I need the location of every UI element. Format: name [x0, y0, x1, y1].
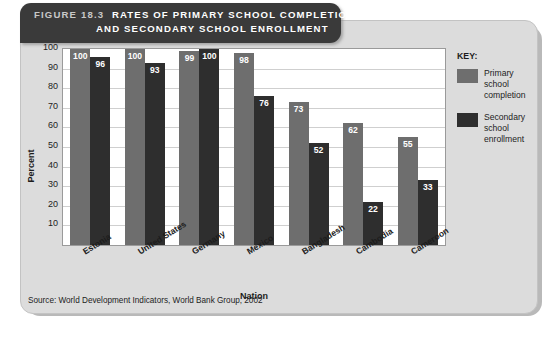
bar-value-label: 76 [254, 98, 274, 108]
bar-value-label: 99 [179, 53, 199, 63]
bar-primary: 73 [289, 102, 309, 245]
figure-title-banner: FIGURE 18.3 RATES OF PRIMARY SCHOOL COMP… [20, 3, 341, 43]
bar-primary: 100 [125, 49, 145, 245]
bar-value-label: 55 [398, 139, 418, 149]
legend-label-primary: Primary school completion [484, 68, 535, 101]
bar-group: 10093 [125, 49, 165, 245]
bar-value-label: 52 [309, 145, 329, 155]
legend-swatch-secondary-icon [457, 113, 478, 127]
y-axis-tick-label: 10 [18, 218, 58, 228]
bar-value-label: 96 [90, 59, 110, 69]
bar-value-label: 62 [343, 125, 363, 135]
bar-primary: 100 [70, 49, 90, 245]
bar-secondary: 76 [254, 96, 274, 245]
legend-swatch-primary-icon [457, 69, 478, 83]
bar-value-label: 100 [70, 51, 90, 61]
figure-title-text-1: RATES OF PRIMARY SCHOOL COMPLETION [112, 9, 355, 20]
bar-group: 7352 [289, 49, 329, 245]
legend-label-secondary: Secondary school enrollment [484, 112, 535, 145]
bar-value-label: 22 [363, 204, 383, 214]
bar-value-label: 93 [145, 65, 165, 75]
y-axis-tick-label: 60 [18, 120, 58, 130]
legend-item-primary: Primary school completion [457, 68, 535, 101]
y-axis-ticks: 102030405060708090100 [20, 48, 58, 246]
bar-value-label: 33 [418, 182, 438, 192]
chart-legend: KEY: Primary school completion Secondary… [457, 51, 535, 156]
bar-secondary: 52 [309, 143, 329, 245]
y-axis-tick-label: 20 [18, 199, 58, 209]
y-axis-tick-label: 30 [18, 179, 58, 189]
bar-secondary: 96 [90, 57, 110, 245]
bar-primary: 99 [179, 51, 199, 245]
y-axis-tick-label: 40 [18, 160, 58, 170]
legend-item-secondary: Secondary school enrollment [457, 112, 535, 145]
y-axis-tick-label: 80 [18, 81, 58, 91]
figure-container: FIGURE 18.3 RATES OF PRIMARY SCHOOL COMP… [0, 0, 549, 350]
bar-value-label: 98 [234, 55, 254, 65]
y-axis-tick-label: 70 [18, 101, 58, 111]
bar-groups: 1009610093991009876735262225533 [63, 49, 445, 245]
bar-value-label: 100 [199, 51, 219, 61]
figure-title-line-1: FIGURE 18.3 RATES OF PRIMARY SCHOOL COMP… [34, 8, 341, 22]
bar-primary: 62 [343, 123, 363, 245]
bar-primary: 55 [398, 137, 418, 245]
bar-value-label: 73 [289, 104, 309, 114]
bar-group: 9876 [234, 49, 274, 245]
legend-title: KEY: [457, 51, 535, 61]
chart-area: Percent 102030405060708090100 1009610093… [20, 43, 536, 312]
bar-group: 5533 [398, 49, 438, 245]
y-axis-tick-label: 90 [18, 62, 58, 72]
bar-secondary: 100 [199, 49, 219, 245]
bar-group: 10096 [70, 49, 110, 245]
bar-primary: 98 [234, 53, 254, 245]
figure-source: Source: World Development Indicators, Wo… [28, 296, 263, 305]
bar-value-label: 100 [125, 51, 145, 61]
bar-secondary: 93 [145, 63, 165, 245]
figure-number: FIGURE 18.3 [34, 9, 104, 20]
y-axis-tick-label: 100 [18, 42, 58, 52]
y-axis-tick-label: 50 [18, 140, 58, 150]
figure-title-line-2: AND SECONDARY SCHOOL ENROLLMENT [34, 22, 341, 36]
bar-group: 6222 [343, 49, 383, 245]
bar-group: 99100 [179, 49, 219, 245]
